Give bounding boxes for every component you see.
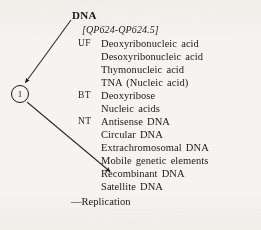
annotation-arrows bbox=[0, 0, 261, 230]
arrow-marker-to-recombinant-dna bbox=[27, 102, 110, 172]
arrow-dna-to-marker bbox=[26, 20, 72, 83]
scanned-index-page: DNA [QP624-QP624.5] UF Deoxyribonucleic … bbox=[0, 0, 261, 230]
